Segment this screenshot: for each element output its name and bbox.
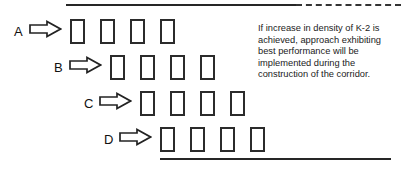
row-label-c: C — [84, 97, 93, 110]
unit-marker — [170, 55, 185, 80]
right-block-arrow-icon — [69, 56, 102, 78]
unit-marker — [140, 55, 155, 80]
unit-marker — [130, 19, 145, 44]
top-boundary-dashed-line — [296, 4, 401, 6]
unit-marker — [140, 91, 155, 116]
unit-marker — [70, 19, 85, 44]
right-block-arrow-icon — [29, 20, 62, 42]
unit-marker — [110, 55, 125, 80]
unit-box-group-b — [110, 55, 215, 80]
unit-marker — [190, 127, 205, 152]
annotation-line-2: achieved, approach exhibiting — [258, 35, 410, 47]
unit-marker — [200, 55, 215, 80]
unit-marker — [230, 91, 245, 116]
unit-box-group-d — [160, 127, 265, 152]
annotation-line-3: best performance will be — [258, 46, 410, 58]
top-boundary-solid-line — [66, 4, 296, 6]
unit-row-d: D — [104, 124, 265, 154]
unit-marker — [220, 127, 235, 152]
unit-marker — [160, 127, 175, 152]
unit-marker — [100, 19, 115, 44]
unit-box-group-a — [70, 19, 175, 44]
right-block-arrow-icon — [119, 128, 152, 150]
annotation-line-1: If increase in density of K-2 is — [258, 23, 410, 35]
row-label-b: B — [54, 61, 63, 74]
row-label-a: A — [14, 25, 23, 38]
unit-box-group-c — [140, 91, 245, 116]
annotation-line-4: implemented during the — [258, 58, 410, 70]
annotation-line-5: construction of the corridor. — [258, 69, 410, 81]
unit-marker — [160, 19, 175, 44]
annotation-text-block: If increase in density of K-2 is achieve… — [258, 23, 410, 81]
unit-row-c: C — [84, 88, 245, 118]
unit-row-a: A — [14, 16, 175, 46]
row-label-d: D — [104, 133, 113, 146]
diagram-canvas: A B C — [0, 0, 414, 169]
unit-marker — [250, 127, 265, 152]
bottom-boundary-solid-line — [160, 158, 391, 160]
right-block-arrow-icon — [99, 92, 132, 114]
unit-marker — [200, 91, 215, 116]
unit-row-b: B — [54, 52, 215, 82]
unit-marker — [170, 91, 185, 116]
